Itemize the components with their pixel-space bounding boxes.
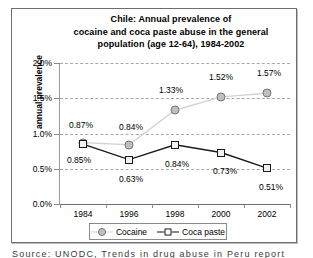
data-point-marker-cocaine [171,106,180,115]
y-tick-mark [54,98,60,99]
legend-entry-coca-paste: Coca paste [157,227,225,237]
data-point-marker-coca-paste [217,149,225,157]
data-label: 1.33% [159,85,183,95]
data-label: 0.84% [165,159,189,169]
x-tick-label: 1996 [106,209,152,219]
data-label: 0.73% [213,166,237,176]
data-label: 0.51% [259,182,283,192]
x-tick-mark [106,204,107,208]
y-tick-mark [54,63,60,64]
chart-title-line-2: cocaine and coca paste abuse in the gene… [46,26,296,39]
data-point-marker-cocaine [125,140,134,149]
x-tick-mark [290,204,291,208]
chart-title: Chile: Annual prevalence of cocaine and … [46,13,296,51]
data-label: 1.52% [209,72,233,82]
data-label: 1.57% [257,68,281,78]
y-tick-mark [54,134,60,135]
data-label: 0.85% [67,155,91,165]
x-tick-mark [152,204,153,208]
x-tick-label: 1984 [60,209,106,219]
legend-square-marker-icon [157,227,179,237]
data-point-marker-cocaine [217,92,226,101]
x-tick-mark [244,204,245,208]
y-tick-label: 0.0% [18,199,52,209]
chart-legend: Cocaine Coca paste [89,223,227,240]
data-point-marker-coca-paste [171,141,179,149]
x-tick-mark [60,204,61,208]
data-point-marker-coca-paste [125,156,133,164]
data-point-marker-coca-paste [263,164,271,172]
legend-circle-marker-icon [91,227,113,237]
y-tick-label: 0.5% [18,164,52,174]
y-tick-label: 2.0% [18,58,52,68]
legend-label-coca-paste: Coca paste [182,227,225,237]
x-tick-label: 2002 [244,209,290,219]
y-tick-label: 1.5% [18,93,52,103]
chart-title-line-1: Chile: Annual prevalence of [46,13,296,26]
chart-frame: Chile: Annual prevalence of cocaine and … [11,8,297,243]
clipped-footer-text: Source: UNODC, Trends in drug abuse in P… [12,250,302,258]
x-axis-line [60,204,291,205]
x-tick-mark [198,204,199,208]
y-tick-label: 1.0% [18,129,52,139]
data-point-marker-cocaine [263,89,272,98]
data-label: 0.87% [69,120,93,130]
data-label: 0.63% [119,174,143,184]
y-tick-mark [54,169,60,170]
series-lines [60,63,290,204]
series-line-cocaine [83,93,267,144]
chart-title-line-3: population (age 12-64), 1984-2002 [46,38,296,51]
data-point-marker-coca-paste [79,140,87,148]
data-label: 0.84% [119,122,143,132]
legend-entry-cocaine: Cocaine [91,227,147,237]
legend-label-cocaine: Cocaine [116,227,147,237]
x-tick-label: 1998 [152,209,198,219]
x-tick-label: 2000 [198,209,244,219]
